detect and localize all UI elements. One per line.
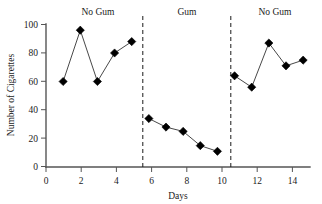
x-tick-label-4: 4 bbox=[114, 176, 119, 186]
data-series-layer bbox=[59, 26, 307, 155]
x-axis-title: Days bbox=[168, 191, 188, 201]
x-tick-label-12: 12 bbox=[252, 176, 262, 186]
data-point-marker bbox=[213, 147, 221, 155]
data-point-marker bbox=[265, 39, 273, 47]
phase-label-no-gum-1: No Gum bbox=[82, 7, 116, 17]
x-tick-label-0: 0 bbox=[44, 176, 49, 186]
x-axis-tick-labels: 0 2 4 6 8 10 12 14 bbox=[44, 176, 298, 186]
phase-labels: No Gum Gum No Gum bbox=[82, 7, 293, 17]
phase-dividers bbox=[143, 16, 231, 167]
y-axis-tick-labels: 0 20 40 60 80 100 bbox=[24, 20, 39, 172]
x-tick-label-6: 6 bbox=[149, 176, 154, 186]
data-point-marker bbox=[162, 123, 170, 131]
data-point-marker bbox=[282, 62, 290, 70]
data-point-marker bbox=[76, 26, 84, 34]
data-point-marker bbox=[230, 72, 238, 80]
data-point-marker bbox=[145, 114, 153, 122]
x-tick-label-8: 8 bbox=[184, 176, 189, 186]
x-tick-label-2: 2 bbox=[79, 176, 84, 186]
y-tick-label-20: 20 bbox=[29, 134, 39, 144]
data-point-marker bbox=[248, 83, 256, 91]
y-tick-label-100: 100 bbox=[24, 20, 39, 30]
y-tick-label-0: 0 bbox=[33, 162, 38, 172]
phase-label-gum: Gum bbox=[178, 7, 198, 17]
data-point-marker bbox=[93, 77, 101, 85]
data-point-marker bbox=[110, 49, 118, 57]
y-tick-label-60: 60 bbox=[29, 77, 39, 87]
y-axis-ticks bbox=[41, 25, 46, 167]
y-tick-label-80: 80 bbox=[29, 48, 39, 58]
y-axis-title: Number of Cigarettes bbox=[6, 54, 16, 137]
phase-label-no-gum-2: No Gum bbox=[259, 7, 293, 17]
series-line-0 bbox=[63, 30, 132, 81]
data-point-marker bbox=[128, 38, 136, 46]
x-axis-ticks bbox=[46, 167, 292, 172]
cigarettes-line-chart: 0 20 40 60 80 100 0 2 4 6 8 10 12 14 bbox=[0, 0, 322, 204]
x-tick-label-14: 14 bbox=[288, 176, 298, 186]
series-line-2 bbox=[235, 43, 304, 87]
chart-page: 0 20 40 60 80 100 0 2 4 6 8 10 12 14 bbox=[0, 0, 322, 204]
y-tick-label-40: 40 bbox=[29, 105, 39, 115]
data-point-marker bbox=[299, 56, 307, 64]
data-point-marker bbox=[59, 77, 67, 85]
x-tick-label-10: 10 bbox=[217, 176, 227, 186]
